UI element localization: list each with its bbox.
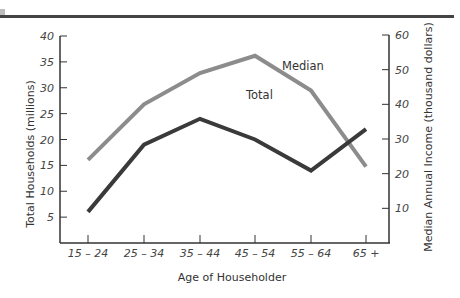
line-chart: 510152025303540 102030405060 15 – 2425 –… bbox=[0, 0, 460, 298]
left-tick-label: 5 bbox=[47, 211, 54, 224]
right-tick-label: 30 bbox=[395, 133, 409, 146]
left-tick-label: 35 bbox=[40, 56, 54, 69]
total-households-line bbox=[88, 119, 366, 212]
x-tick-label: 55 – 64 bbox=[291, 247, 332, 260]
x-axis-ticks: 15 – 2425 – 3435 – 4445 – 5455 – 6465 + bbox=[68, 235, 380, 260]
x-tick-label: 25 – 34 bbox=[124, 247, 165, 260]
right-tick-label: 60 bbox=[395, 29, 409, 42]
median-income-line bbox=[88, 56, 366, 167]
x-tick-label: 15 – 24 bbox=[68, 247, 109, 260]
median-series-label: Median bbox=[282, 59, 324, 73]
x-tick-label: 35 – 44 bbox=[180, 247, 221, 260]
left-tick-label: 15 bbox=[40, 159, 54, 172]
left-y-axis-title: Total Households (millions) bbox=[24, 80, 37, 229]
left-tick-label: 10 bbox=[40, 185, 54, 198]
left-tick-label: 30 bbox=[40, 82, 54, 95]
left-tick-label: 25 bbox=[40, 108, 54, 121]
left-tick-label: 20 bbox=[40, 134, 54, 147]
total-series-label: Total bbox=[245, 88, 273, 102]
right-tick-label: 10 bbox=[395, 202, 409, 215]
right-tick-label: 20 bbox=[395, 168, 409, 181]
x-axis-title: Age of Householder bbox=[178, 271, 287, 284]
x-tick-label: 45 – 54 bbox=[235, 247, 276, 260]
right-tick-label: 50 bbox=[395, 64, 409, 77]
right-axis-ticks: 102030405060 bbox=[382, 29, 409, 215]
left-tick-label: 40 bbox=[40, 30, 54, 43]
left-axis-ticks: 510152025303540 bbox=[40, 30, 67, 224]
right-y-axis-title: Median Annual Income (thousand dollars) bbox=[422, 22, 435, 252]
right-tick-label: 40 bbox=[395, 98, 409, 111]
x-tick-label: 65 + bbox=[353, 247, 380, 260]
